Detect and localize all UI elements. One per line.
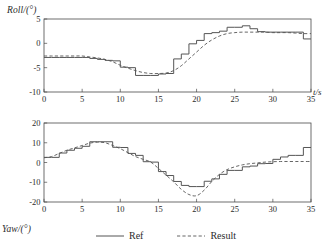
x-tick-label: 25 xyxy=(230,94,239,104)
x-tick-label: 15 xyxy=(154,204,163,214)
series-line-ref xyxy=(44,142,311,187)
x-tick-label: 5 xyxy=(80,94,84,104)
y-tick-label: -10 xyxy=(29,177,40,187)
legend-entry-result: Result xyxy=(177,230,236,241)
roll-y-axis-label: Roll/(°) xyxy=(7,5,36,15)
roll-chart-panel: Roll/(°) t/s 0510152025303550-5-10 xyxy=(0,0,332,113)
y-tick-label: 20 xyxy=(32,118,41,128)
legend-label-result: Result xyxy=(210,230,236,241)
roll-plot-svg: 0510152025303550-5-10 xyxy=(0,0,332,113)
y-tick-label: -20 xyxy=(29,197,40,207)
x-tick-label: 10 xyxy=(116,204,125,214)
yaw-chart-panel: Yaw/(°) t/s 0510152025303520100-10-20 xyxy=(0,112,332,216)
y-tick-label: 0 xyxy=(36,158,40,168)
y-tick-label: 5 xyxy=(36,14,40,24)
x-tick-label: 15 xyxy=(154,94,163,104)
yaw-plot-svg: 0510152025303520100-10-20 xyxy=(0,112,332,216)
x-tick-label: 35 xyxy=(307,204,316,214)
x-tick-label: 20 xyxy=(192,204,201,214)
y-tick-label: -10 xyxy=(29,87,40,97)
x-tick-label: 25 xyxy=(230,204,239,214)
chart-legend: Ref Result xyxy=(0,222,332,249)
chart-figure: Roll/(°) t/s 0510152025303550-5-10 Yaw/(… xyxy=(0,0,332,249)
y-tick-label: 0 xyxy=(36,38,40,48)
x-tick-label: 30 xyxy=(269,94,278,104)
y-tick-label: 10 xyxy=(32,138,41,148)
x-tick-label: 0 xyxy=(42,204,46,214)
x-tick-label: 10 xyxy=(116,94,125,104)
dashed-line-icon xyxy=(177,231,205,241)
solid-line-icon xyxy=(96,231,124,241)
x-tick-label: 0 xyxy=(42,94,46,104)
x-tick-label: 20 xyxy=(192,94,201,104)
x-tick-label: 30 xyxy=(269,204,278,214)
legend-entry-ref: Ref xyxy=(96,230,143,241)
x-tick-label: 5 xyxy=(80,204,84,214)
y-tick-label: -5 xyxy=(33,63,40,73)
series-line-result xyxy=(44,32,311,73)
roll-x-axis-label: t/s xyxy=(313,87,322,97)
series-line-result xyxy=(44,142,311,196)
legend-label-ref: Ref xyxy=(129,230,143,241)
